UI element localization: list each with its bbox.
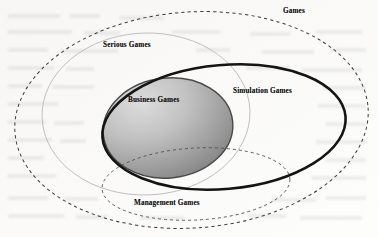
set-label-serious-games: Serious Games <box>103 41 151 49</box>
set-label-games: Games <box>283 7 305 15</box>
set-label-management-games: Management Games <box>134 199 200 207</box>
set-label-simulation-games: Simulation Games <box>233 87 292 95</box>
set-label-business-games: Business Games <box>128 96 179 104</box>
venn-diagram-canvas: Games Serious Games Simulation Games Bus… <box>0 0 378 237</box>
